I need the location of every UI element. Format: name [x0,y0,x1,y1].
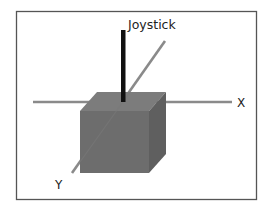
x-axis-label: X [237,96,245,110]
y-axis-label: Y [54,178,63,192]
joystick-label: Joystick [127,17,176,32]
joystick-axes-diagram: Joystick X Y [0,0,269,212]
joystick-stick [121,30,126,102]
cube-front-face [80,111,149,173]
cube-base [80,92,166,173]
